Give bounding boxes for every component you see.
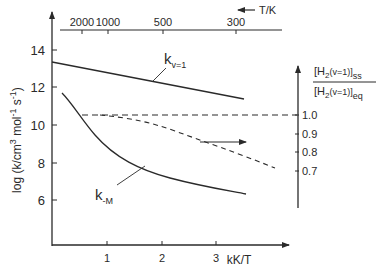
series-k-v1: kv=1 (52, 50, 244, 99)
svg-text:log (k/cm3 mol-1 s-1): log (k/cm3 mol-1 s-1) (8, 87, 24, 193)
top-tick-label: 500 (154, 16, 172, 28)
top-tick-label: 300 (227, 16, 245, 28)
left-y-axis: 14 12 10 8 6 (31, 12, 57, 246)
top-temperature-axis: 2000 1000 500 300 T/K (60, 4, 282, 34)
y-tick-label: 6 (38, 193, 45, 208)
x-tick-label: 3 (213, 252, 219, 264)
chart-figure: 14 12 10 8 6 log (k/cm3 mol-1 s-1) 1 2 3… (0, 0, 382, 272)
y-tick-label: 10 (31, 118, 45, 133)
x-tick-label: 2 (159, 252, 165, 264)
top-tick-label: 2000 (70, 16, 94, 28)
bottom-x-axis: 1 2 3 kK/T (52, 241, 289, 267)
right-tick-label: 0.8 (302, 146, 317, 158)
x-tick-label: 1 (104, 252, 110, 264)
right-tick-label: 0.9 (302, 128, 317, 140)
y-axis-label: log (k/cm3 mol-1 s-1) (8, 87, 24, 193)
y-tick-label: 12 (31, 80, 45, 95)
right-tick-label: 1.0 (302, 109, 317, 121)
y-tick-label: 8 (38, 156, 45, 171)
series-label-k-minus-M: k-M (95, 186, 113, 206)
ratio-numerator: [H2(v=1)]ss (314, 65, 362, 81)
y-tick-label: 14 (31, 43, 45, 58)
top-axis-label: T/K (259, 4, 277, 16)
series-k-minus-M: k-M (62, 93, 246, 206)
right-axis-label: [H2(v=1)]ss [H2(v=1)]eq (313, 65, 376, 101)
right-tick-label: 0.7 (302, 165, 317, 177)
chart-svg: 14 12 10 8 6 log (k/cm3 mol-1 s-1) 1 2 3… (0, 0, 382, 272)
series-label-k-v1: kv=1 (164, 50, 186, 70)
ratio-denominator: [H2(v=1)]eq (314, 85, 363, 101)
x-axis-label: kK/T (227, 253, 252, 267)
top-tick-label: 1000 (96, 16, 120, 28)
